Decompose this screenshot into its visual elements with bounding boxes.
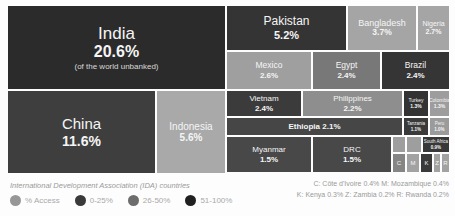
- tile-text: Nigeria: [422, 20, 444, 28]
- tile-text: M: [411, 160, 416, 167]
- treemap-tile-bangladesh: Bangladesh3.7%: [348, 6, 416, 50]
- tile-text: China: [62, 115, 101, 132]
- treemap-tile-nigeria: Nigeria2.7%: [418, 6, 449, 50]
- tile-text: (of the world unbanked): [74, 62, 158, 71]
- ida-note: International Development Association (I…: [10, 181, 190, 190]
- tile-text: Vietnam: [249, 94, 278, 103]
- treemap-tile-pakistan: Pakistan5.2%: [227, 6, 346, 50]
- tile-text: Z: [435, 160, 439, 167]
- legend-dot-icon: [185, 195, 196, 206]
- tile-text: Myanmar: [252, 145, 285, 154]
- treemap-tile-indonesia: Indonesia5.6%: [157, 91, 225, 173]
- legend-label: 51-100%: [200, 196, 232, 205]
- treemap-tile-tanzania: Tanzania1.1%: [404, 118, 428, 135]
- treemap-tile-vietnam: Vietnam2.4%: [227, 91, 301, 116]
- tile-text: Indonesia: [169, 121, 212, 133]
- treemap-tile-turkey: Turkey1.3%: [404, 91, 428, 116]
- legend-item-3: 51-100%: [185, 195, 232, 206]
- treemap-tile-china: China11.6%: [8, 91, 155, 173]
- treemap-tile-south-africa: South Africa0.9%: [423, 137, 449, 152]
- treemap: India20.6%(of the world unbanked)China11…: [8, 6, 449, 173]
- treemap-tile-peru: Peru1.0%: [430, 118, 449, 135]
- treemap-tile-kenya: K: [421, 154, 432, 172]
- treemap-tile-mozambique: M: [407, 154, 419, 172]
- treemap-tile-colombia: Colombia1.3%: [430, 91, 449, 116]
- tile-text: 3.7%: [372, 28, 391, 38]
- tile-text: 2.2%: [343, 104, 361, 113]
- tile-text: K: [424, 160, 428, 167]
- treemap-tile-zambia: Z: [434, 154, 440, 172]
- tile-text: 2.6%: [260, 71, 278, 80]
- tile-text: Mexico: [256, 61, 283, 71]
- treemap-tile-rwanda: R: [442, 154, 449, 172]
- tile-text: 0.9%: [431, 145, 441, 150]
- tile-text: 1.3%: [410, 104, 421, 110]
- tile-text: 2.7%: [426, 28, 442, 36]
- tile-text: Philippines: [333, 94, 372, 103]
- unbanked-treemap-figure: India20.6%(of the world unbanked)China11…: [0, 0, 455, 216]
- footnote-line-2: K: Kenya 0.3% Z: Zambia 0.2% R: Rwanda 0…: [297, 190, 449, 201]
- tile-text: 20.6%: [94, 43, 139, 61]
- tile-text: Pakistan: [263, 15, 309, 29]
- treemap-tile-unlabeled-tile-1: [393, 137, 405, 152]
- legend-item-0: % Access: [10, 195, 60, 206]
- tile-text: 5.6%: [180, 132, 203, 144]
- tile-text: DRC: [343, 145, 360, 154]
- legend-item-2: 26-50%: [128, 195, 171, 206]
- treemap-tile-egypt: Egypt2.4%: [313, 52, 380, 89]
- legend-item-1: 0-25%: [75, 195, 113, 206]
- treemap-tile-unlabeled-tile-2: [407, 137, 421, 152]
- footnotes: C: Côte d'Ivoire 0.4% M: Mozambique 0.4%…: [297, 179, 449, 200]
- tile-text: 2.4%: [337, 71, 355, 80]
- tile-text: 1.3%: [434, 104, 445, 110]
- legend-dot-icon: [128, 195, 139, 206]
- tile-text: 5.2%: [274, 29, 299, 42]
- tile-text: C: [397, 160, 401, 167]
- legend-dot-icon: [10, 195, 21, 206]
- treemap-tile-brazil: Brazil2.4%: [382, 52, 449, 89]
- tile-text: Brazil: [405, 61, 426, 71]
- treemap-tile-ethiopia: Ethiopia 2.1%: [227, 118, 402, 135]
- legend-label: 26-50%: [143, 196, 171, 205]
- tile-text: India: [98, 24, 135, 44]
- treemap-tile-philippines: Philippines2.2%: [303, 91, 402, 116]
- legend: % Access0-25%26-50%51-100%: [10, 195, 232, 206]
- tile-text: R: [443, 160, 447, 167]
- treemap-tile-drc: DRC1.5%: [313, 137, 391, 172]
- figure-footer: International Development Association (I…: [0, 173, 455, 216]
- legend-label: 0-25%: [90, 196, 113, 205]
- tile-text: Egypt: [336, 61, 358, 71]
- treemap-tile-india: India20.6%(of the world unbanked): [8, 6, 225, 89]
- tile-text: 1.0%: [434, 127, 444, 132]
- tile-text: 2.4%: [406, 71, 424, 80]
- legend-dot-icon: [75, 195, 86, 206]
- treemap-tile-myanmar: Myanmar1.5%: [227, 137, 311, 172]
- treemap-tile-cote-divoire: C: [393, 154, 405, 172]
- tile-text: 1.5%: [260, 155, 278, 164]
- legend-label: % Access: [25, 196, 60, 205]
- tile-text: 1.5%: [343, 155, 361, 164]
- tile-text: 11.6%: [62, 133, 101, 149]
- tile-text: Ethiopia 2.1%: [288, 122, 340, 131]
- footnote-line-1: C: Côte d'Ivoire 0.4% M: Mozambique 0.4%: [297, 179, 449, 190]
- tile-text: 2.4%: [255, 104, 273, 113]
- treemap-tile-mexico: Mexico2.6%: [227, 52, 311, 89]
- tile-text: 1.1%: [411, 127, 421, 132]
